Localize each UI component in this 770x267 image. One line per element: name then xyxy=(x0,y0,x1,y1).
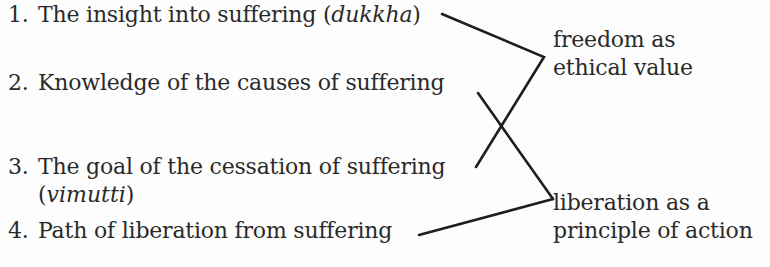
connector-1-3-to-freedom xyxy=(442,14,544,167)
connector-4-to-liberation xyxy=(419,199,553,235)
connector-lines xyxy=(0,0,770,267)
